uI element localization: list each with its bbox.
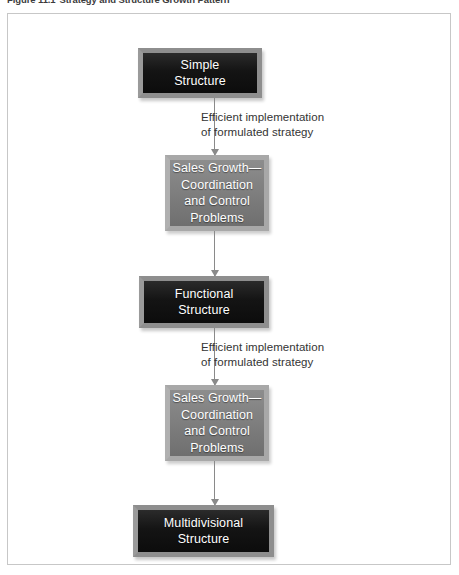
- edge-label-efficient-implementation-1: Efficient implementation of formulated s…: [201, 110, 324, 140]
- flow-node-sales-growth-2: Sales Growth— Coordination and Control P…: [165, 385, 269, 461]
- figure-panel: Simple Structure Efficient implementatio…: [7, 13, 451, 565]
- flow-node-label: Sales Growth— Coordination and Control P…: [173, 390, 262, 456]
- flow-node-sales-growth-1: Sales Growth— Coordination and Control P…: [165, 155, 269, 231]
- flowchart-diagram: Simple Structure Efficient implementatio…: [8, 14, 450, 564]
- flow-node-label: Functional Structure: [175, 286, 234, 319]
- flow-node-label: Simple Structure: [174, 57, 226, 90]
- edge-label-efficient-implementation-2: Efficient implementation of formulated s…: [201, 340, 324, 370]
- flow-node-label: Sales Growth— Coordination and Control P…: [173, 160, 262, 226]
- flow-node-label: Multidivisional Structure: [164, 515, 243, 548]
- flow-node-simple-structure: Simple Structure: [138, 48, 262, 98]
- flow-node-functional-structure: Functional Structure: [139, 276, 269, 328]
- figure-caption: Figure 11.1Strategy and Structure Growth…: [7, 0, 447, 7]
- connector-arrow-2: [214, 231, 215, 276]
- flow-node-multidivisional-structure: Multidivisional Structure: [133, 505, 274, 557]
- connector-arrow-4: [214, 461, 215, 505]
- figure-caption-title: Strategy and Structure Growth Pattern: [60, 0, 230, 5]
- figure-caption-number: Figure 11.1: [7, 0, 56, 5]
